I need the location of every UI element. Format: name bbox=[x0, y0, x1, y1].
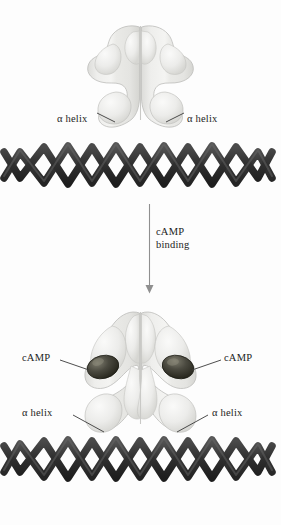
protein-left-foot-open bbox=[85, 394, 122, 432]
bottom-alpha-helix-ribbon bbox=[4, 438, 272, 478]
label-alpha-helix-top-right: α helix bbox=[187, 113, 218, 124]
top-protein-dimer bbox=[88, 26, 194, 127]
top-alpha-helix-ribbon bbox=[4, 144, 272, 184]
protein-left-foot bbox=[98, 92, 131, 124]
leader-line-camp-right bbox=[192, 360, 221, 370]
protein-right-foot-open bbox=[159, 394, 196, 432]
label-camp-binding-line2: binding bbox=[156, 239, 190, 252]
down-arrow-icon bbox=[146, 285, 154, 294]
label-alpha-helix-bottom-right: α helix bbox=[212, 407, 243, 418]
protein-right-foot bbox=[150, 92, 183, 124]
camp-binding-arrow bbox=[146, 204, 154, 294]
label-alpha-helix-bottom-left: α helix bbox=[22, 407, 53, 418]
label-camp-right: cAMP bbox=[224, 352, 252, 363]
label-camp-left: cAMP bbox=[22, 352, 50, 363]
label-alpha-helix-top-left: α helix bbox=[57, 113, 88, 124]
figure-container: α helix α helix cAMP binding cAMP cAMP α… bbox=[0, 0, 281, 525]
label-camp-binding-line1: cAMP bbox=[156, 226, 184, 239]
figure-illustration bbox=[0, 0, 281, 525]
leader-line-camp-left bbox=[60, 360, 89, 370]
